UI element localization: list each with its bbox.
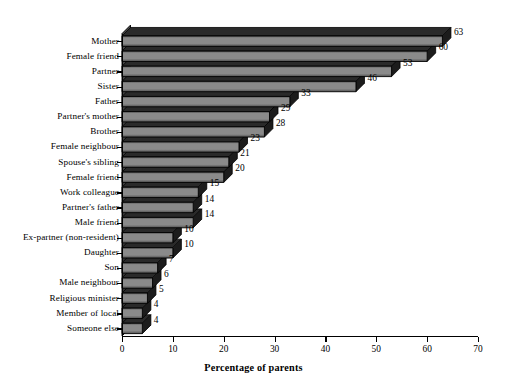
category-label: Female friend [1,51,119,61]
y-axis-tick [117,117,122,118]
bar-value-label: 5 [159,284,164,294]
category-label: Son [1,262,119,272]
bar-value-label: 46 [367,73,376,83]
y-axis-tick [117,253,122,254]
y-axis-tick [117,223,122,224]
bar-front-face [122,187,198,197]
category-label: Female neighbour [1,141,119,151]
y-axis-tick [117,71,122,72]
bar-value-label: 14 [205,209,214,219]
y-axis-tick [117,298,122,299]
x-axis-tick-label: 0 [120,344,125,354]
category-label: Ex-partner (non-resident) [1,232,119,242]
bar-front-face [122,293,147,303]
x-axis-tick-label: 70 [473,344,482,354]
bar-top-face [122,27,451,36]
bar-front-face [122,142,239,152]
bar-value-label: 10 [184,239,193,249]
category-label: Daughter [1,247,119,257]
category-label: Someone else [1,323,119,333]
x-axis-tick-label: 10 [168,344,177,354]
bar-value-label: 7 [169,254,174,264]
bar-front-face [122,112,269,122]
y-axis-tick [117,162,122,163]
bar-front-face [122,36,442,46]
x-axis-tick-label: 40 [321,344,330,354]
y-axis-tick [117,192,122,193]
bar-value-label: 4 [154,315,159,325]
bar-front-face [122,323,142,333]
x-axis-tick [122,337,123,342]
y-axis-tick [117,147,122,148]
y-axis-tick [117,207,122,208]
plot-area: MotherFemale friendPartnerSisterFatherPa… [0,0,507,391]
category-label: Sister [1,81,119,91]
y-axis-tick [117,313,122,314]
y-axis-tick [117,56,122,57]
bar-front-face [122,172,224,182]
bar-value-label: 21 [240,148,249,158]
category-label: Partner's mother [1,111,119,121]
bar-front-face [122,248,173,258]
category-label: Spouse's sibling [1,157,119,167]
bar-value-label: 23 [250,133,259,143]
category-axis-labels: MotherFemale friendPartnerSisterFatherPa… [0,0,119,391]
bar-front-face [122,96,290,106]
bar-front-face [122,308,142,318]
x-axis-tick-label: 60 [422,344,431,354]
x-axis-line [122,336,478,337]
bar-front-face [122,81,356,91]
category-label: Male friend [1,217,119,227]
bar-front-face [122,278,153,288]
bar-front-face [122,233,173,243]
x-axis-tick [224,337,225,342]
category-label: Mother [1,36,119,46]
category-label: Partner [1,66,119,76]
category-label: Brother [1,126,119,136]
x-axis-tick [325,337,326,342]
y-axis-tick [117,328,122,329]
bar-value-label: 29 [281,103,290,113]
bar-value-label: 53 [403,58,412,68]
x-axis-title: Percentage of parents [0,362,507,373]
category-label: Male neighbour [1,277,119,287]
bar-value-label: 10 [184,224,193,234]
bar-value-label: 20 [235,163,244,173]
x-axis-tick-label: 50 [372,344,381,354]
bar-value-label: 6 [164,269,169,279]
x-axis-tick [173,337,174,342]
bar-value-label: 63 [454,27,463,37]
bar-value-label: 33 [301,88,310,98]
y-axis-tick [117,238,122,239]
x-axis-tick-label: 20 [219,344,228,354]
bar-value-label: 4 [154,299,159,309]
y-axis-tick [117,87,122,88]
y-axis-tick [117,283,122,284]
bar-value-label: 60 [439,42,448,52]
y-axis-tick [117,177,122,178]
y-axis-tick [117,102,122,103]
category-label: Partner's father [1,202,119,212]
y-axis-tick [117,132,122,133]
bar-value-label: 15 [210,178,219,188]
category-label: Female friend [1,172,119,182]
bar-front-face [122,263,158,273]
y-axis-tick [117,41,122,42]
x-axis-tick [275,337,276,342]
bar-value-label: 28 [276,118,285,128]
y-axis-tick [117,268,122,269]
x-axis-tick [478,337,479,342]
bar-value-label: 14 [205,194,214,204]
category-label: Member of local [1,308,119,318]
category-label: Father [1,96,119,106]
bar-front-face [122,157,229,167]
y-axis-line [122,34,123,336]
bar-front-face [122,51,427,61]
bar-front-face [122,66,392,76]
bar-front-face [122,217,193,227]
bar-front-face [122,127,264,137]
bar-chart: MotherFemale friendPartnerSisterFatherPa… [0,0,507,391]
x-axis-tick [376,337,377,342]
x-axis-tick [427,337,428,342]
category-label: Work colleague [1,187,119,197]
